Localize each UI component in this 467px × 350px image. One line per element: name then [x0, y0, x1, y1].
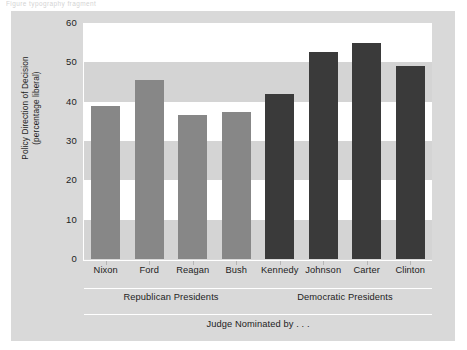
x-axis-tick-mark: [193, 261, 194, 265]
group-label-republican: Republican Presidents: [84, 292, 258, 302]
x-axis-tick-mark: [106, 261, 107, 265]
x-axis-label-reagan: Reagan: [171, 265, 215, 275]
x-axis-label-clinton: Clinton: [389, 265, 433, 275]
x-axis-label-kennedy: Kennedy: [258, 265, 302, 275]
group-label-democratic: Democratic Presidents: [258, 292, 432, 302]
bar-ford[interactable]: [135, 80, 164, 259]
x-axis-tick-mark: [280, 261, 281, 265]
x-axis-label-johnson: Johnson: [302, 265, 346, 275]
bars-layer: [84, 23, 432, 259]
x-axis-label-nixon: Nixon: [84, 265, 128, 275]
bar-carter[interactable]: [352, 43, 381, 259]
y-axis-title-line1: Policy Direction of Decision: [20, 33, 31, 183]
y-axis-tick-label: 60: [55, 17, 77, 28]
x-axis-label-bush: Bush: [215, 265, 259, 275]
bar-clinton[interactable]: [396, 66, 425, 259]
bar-nixon[interactable]: [91, 106, 120, 259]
bar-reagan[interactable]: [178, 115, 207, 259]
page-text-fragment: Figure typography fragment: [6, 0, 166, 8]
bar-kennedy[interactable]: [265, 94, 294, 259]
y-axis-title: Policy Direction of Decision (percentage…: [20, 33, 42, 183]
y-axis-title-line2: (percentage liberal): [31, 33, 42, 183]
y-axis-tick-label: 10: [55, 214, 77, 225]
y-axis-tick-label: 0: [55, 253, 77, 264]
x-axis-tick-mark: [149, 261, 150, 265]
x-axis-label-ford: Ford: [128, 265, 172, 275]
x-axis-labels: NixonFordReaganBushKennedyJohnsonCarterC…: [84, 265, 432, 281]
x-axis-title: Judge Nominated by . . .: [84, 319, 432, 329]
group-separator-rule: [84, 288, 432, 289]
bar-bush[interactable]: [222, 112, 251, 260]
y-axis-tick-label: 40: [55, 96, 77, 107]
figure-card: 0102030405060 Policy Direction of Decisi…: [11, 11, 455, 341]
y-axis-ticks: 0102030405060: [51, 23, 77, 259]
x-axis-label-carter: Carter: [345, 265, 389, 275]
axis-title-separator-rule: [84, 314, 432, 315]
y-axis-tick-label: 20: [55, 174, 77, 185]
y-axis-tick-label: 50: [55, 56, 77, 67]
y-axis-line: [83, 23, 84, 260]
bar-johnson[interactable]: [309, 52, 338, 259]
x-axis-tick-mark: [367, 261, 368, 265]
x-axis-tick-mark: [323, 261, 324, 265]
x-axis-tick-mark: [410, 261, 411, 265]
x-axis-tick-mark: [236, 261, 237, 265]
y-axis-tick-label: 30: [55, 135, 77, 146]
